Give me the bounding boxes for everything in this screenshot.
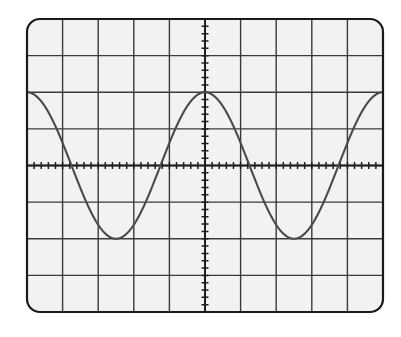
oscilloscope-figure	[0, 0, 401, 337]
oscilloscope-screen	[0, 0, 401, 337]
